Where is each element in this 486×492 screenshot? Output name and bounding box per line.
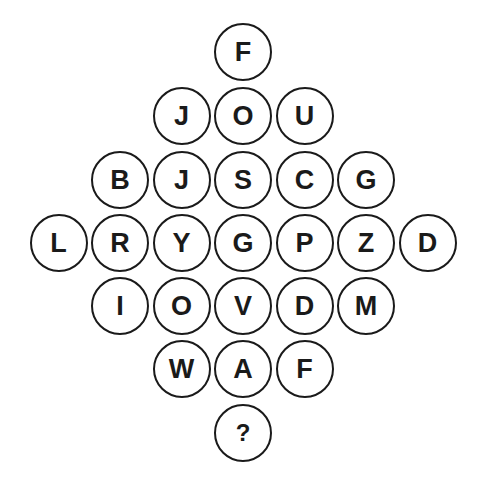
missing-letter-circle: ? — [214, 404, 272, 462]
letter: P — [295, 230, 313, 257]
question-mark: ? — [236, 421, 251, 445]
letter: R — [110, 230, 130, 257]
letter-circle: G — [337, 151, 395, 209]
letter: F — [235, 39, 252, 66]
letter: V — [234, 293, 252, 320]
letter-circle: J — [153, 87, 211, 145]
letter: O — [171, 293, 192, 320]
letter: S — [234, 167, 252, 194]
letter: Z — [358, 230, 375, 257]
letter-circle: A — [214, 340, 272, 398]
letter-circle: G — [214, 214, 272, 272]
letter-circle: L — [30, 214, 88, 272]
letter-circle: V — [214, 277, 272, 335]
letter: Y — [172, 230, 190, 257]
letter: G — [355, 167, 376, 194]
letter: W — [169, 356, 194, 383]
letter-circle: C — [276, 151, 334, 209]
letter-circle: O — [214, 87, 272, 145]
letter-circle: U — [276, 87, 334, 145]
letter-circle: Y — [153, 214, 211, 272]
letter: C — [295, 167, 315, 194]
letter-diamond-puzzle: FJOUBJSCGLRYGPZDIOVDMWAF? — [0, 0, 486, 492]
letter-circle: J — [153, 151, 211, 209]
letter: J — [174, 103, 189, 130]
letter: I — [116, 293, 124, 320]
letter: J — [174, 167, 189, 194]
letter-circle: F — [214, 23, 272, 81]
letter: D — [418, 230, 438, 257]
letter: G — [232, 230, 253, 257]
letter: M — [355, 293, 378, 320]
letter: D — [295, 293, 315, 320]
letter-circle: S — [214, 151, 272, 209]
letter-circle: R — [91, 214, 149, 272]
letter: B — [110, 167, 130, 194]
letter-circle: Z — [337, 214, 395, 272]
letter-circle: B — [91, 151, 149, 209]
letter-circle: F — [276, 340, 334, 398]
letter: L — [50, 230, 67, 257]
letter-circle: P — [276, 214, 334, 272]
letter: U — [295, 103, 315, 130]
letter-circle: O — [153, 277, 211, 335]
letter: A — [233, 356, 253, 383]
letter-circle: D — [276, 277, 334, 335]
letter-circle: W — [153, 340, 211, 398]
letter: F — [296, 356, 313, 383]
letter-circle: I — [91, 277, 149, 335]
letter-circle: M — [337, 277, 395, 335]
letter-circle: D — [399, 214, 457, 272]
letter: O — [232, 103, 253, 130]
